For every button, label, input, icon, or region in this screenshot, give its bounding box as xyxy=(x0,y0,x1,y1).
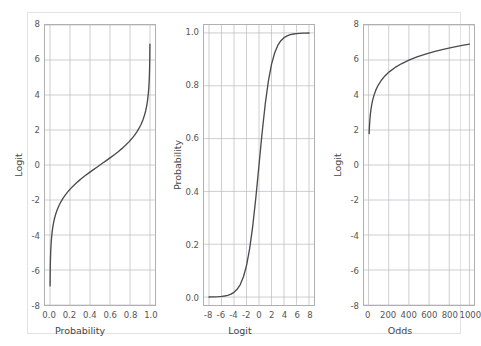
y-tick-label: 0 xyxy=(354,161,359,170)
x-tick-label: 0.0 xyxy=(42,311,56,320)
y-tick-label: 4 xyxy=(354,90,359,99)
x-tick-label: 1.0 xyxy=(144,311,158,320)
subplot-logit-vs-probability: 0.00.20.40.60.81.0 -8-6-4-202468 Logit P… xyxy=(160,0,320,346)
x-tick-label: 0.2 xyxy=(63,311,77,320)
x-axis-title-2: Odds xyxy=(320,325,480,336)
y-tick-label: -8 xyxy=(32,302,40,311)
y-tick-label: -4 xyxy=(351,231,359,240)
y-tick-label: 6 xyxy=(354,55,359,64)
plot-area-2 xyxy=(363,24,475,306)
plot-area-0 xyxy=(44,24,156,306)
y-tick-label: -4 xyxy=(32,231,40,240)
x-tick-label: 800 xyxy=(442,311,458,320)
y-tick-label: 8 xyxy=(354,20,359,29)
plot-svg-2 xyxy=(364,25,474,305)
x-tick-label: 0.8 xyxy=(124,311,138,320)
y-tick-label: 6 xyxy=(35,55,40,64)
x-tick-label: 0 xyxy=(365,311,370,320)
y-tick-label: 0.0 xyxy=(185,294,199,303)
y-tick-label: 4 xyxy=(35,90,40,99)
plot-svg-0 xyxy=(45,25,155,305)
y-axis-title-1: Probability xyxy=(172,140,183,190)
x-tick-label: 6 xyxy=(294,311,299,320)
y-tick-label: 0.2 xyxy=(185,241,199,250)
y-tick-label: 0.4 xyxy=(185,187,199,196)
y-axis-title-2: Logit xyxy=(332,153,343,176)
y-tick-label: 2 xyxy=(35,126,40,135)
plot-svg-1 xyxy=(204,25,314,305)
x-tick-label: -8 xyxy=(204,311,212,320)
x-tick-label: 4 xyxy=(282,311,287,320)
y-tick-label: 0 xyxy=(35,161,40,170)
x-tick-label: 200 xyxy=(380,311,396,320)
x-tick-label: 1000 xyxy=(460,311,481,320)
x-tick-label: 600 xyxy=(421,311,437,320)
x-tick-label: 0.4 xyxy=(83,311,97,320)
y-tick-label: 0.6 xyxy=(185,134,199,143)
y-tick-label: -2 xyxy=(351,196,359,205)
x-axis-title-0: Probability xyxy=(0,325,160,336)
plot-area-1 xyxy=(203,24,315,306)
x-tick-label: 8 xyxy=(307,311,312,320)
subplot-probability-vs-logit: -8-6-4-202468 0.00.20.40.60.81.0 Probabi… xyxy=(0,0,160,346)
x-axis-title-1: Logit xyxy=(160,325,320,336)
x-tick-label: -6 xyxy=(217,311,225,320)
y-tick-label: -8 xyxy=(351,302,359,311)
subplot-odds-vs-logit: -8-6-4-202468 02004006008001000 Odds Log… xyxy=(320,0,480,346)
y-tick-label: -6 xyxy=(32,267,40,276)
x-tick-label: 2 xyxy=(269,311,274,320)
y-tick-label: 2 xyxy=(354,126,359,135)
x-tick-label: 0 xyxy=(256,311,261,320)
x-tick-label: -2 xyxy=(242,311,250,320)
y-tick-label: -2 xyxy=(32,196,40,205)
x-tick-label: 400 xyxy=(401,311,417,320)
y-tick-label: -6 xyxy=(351,267,359,276)
x-tick-label: 0.6 xyxy=(103,311,117,320)
y-axis-title-0: Logit xyxy=(13,153,24,176)
y-tick-label: 8 xyxy=(35,20,40,29)
y-tick-label: 1.0 xyxy=(185,28,199,37)
y-tick-label: 0.8 xyxy=(185,81,199,90)
x-tick-label: -4 xyxy=(229,311,237,320)
